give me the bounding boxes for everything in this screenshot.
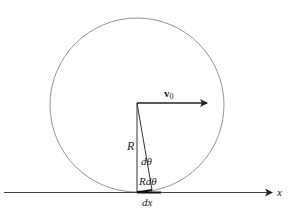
radius-label: R bbox=[126, 139, 135, 153]
arc-label: Rdθ bbox=[138, 175, 157, 187]
velocity-label: v0 bbox=[164, 87, 174, 101]
axis-label: x bbox=[276, 186, 282, 198]
displacement-label: dx bbox=[142, 196, 153, 208]
angle-label: dθ bbox=[141, 155, 153, 167]
rolling-wheel-diagram: v0 R dθ Rdθ dx x bbox=[0, 0, 288, 214]
